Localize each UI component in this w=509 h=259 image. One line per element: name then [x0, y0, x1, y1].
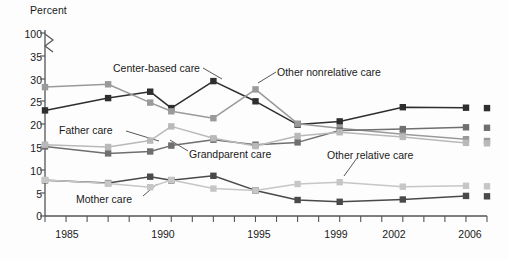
data-point: [463, 193, 469, 199]
data-point: [463, 183, 469, 189]
data-point: [400, 134, 406, 140]
data-point: [484, 140, 490, 146]
data-point: [400, 126, 406, 132]
series-father-care: [42, 123, 490, 150]
data-point: [42, 177, 48, 183]
data-point: [147, 89, 153, 95]
data-point: [337, 118, 343, 124]
data-point: [484, 125, 490, 131]
data-point: [147, 99, 153, 105]
data-point: [294, 121, 300, 127]
chart-figure: Percent 100 35 30 25 20 15 10 5 0 1985 1…: [0, 0, 509, 259]
data-point: [252, 86, 258, 92]
data-point: [337, 179, 343, 185]
data-point: [463, 140, 469, 146]
series-other-relative-care: [42, 177, 490, 194]
data-point: [210, 185, 216, 191]
data-point: [294, 197, 300, 203]
data-point: [463, 124, 469, 130]
data-point: [147, 174, 153, 180]
data-point: [168, 108, 174, 114]
data-point: [105, 144, 111, 150]
data-point: [252, 143, 258, 149]
data-point: [168, 142, 174, 148]
data-point: [147, 148, 153, 154]
data-point: [484, 183, 490, 189]
series-other-nonrelative-care: [42, 81, 490, 144]
data-point: [42, 107, 48, 113]
data-point: [105, 180, 111, 186]
x-axis-ticks: [45, 216, 487, 222]
data-point: [42, 142, 48, 148]
data-point: [337, 199, 343, 205]
data-point: [294, 139, 300, 145]
data-point: [400, 196, 406, 202]
data-point: [400, 184, 406, 190]
data-point: [484, 105, 490, 111]
data-point: [168, 123, 174, 129]
data-point: [400, 104, 406, 110]
data-point: [294, 133, 300, 139]
data-point: [463, 105, 469, 111]
data-point: [337, 129, 343, 135]
data-point: [210, 78, 216, 84]
series-grandparent-care: [42, 124, 490, 156]
data-point: [105, 81, 111, 87]
data-point: [210, 115, 216, 121]
data-point: [210, 173, 216, 179]
data-point: [42, 84, 48, 90]
data-point: [210, 135, 216, 141]
data-point: [168, 177, 174, 183]
data-series-layer: [42, 78, 490, 205]
data-point: [484, 193, 490, 199]
y-axis-ticks: [40, 33, 45, 216]
data-point: [147, 184, 153, 190]
data-point: [294, 181, 300, 187]
axis-break-marker: [45, 34, 53, 52]
annotation-leader-lines: [126, 68, 357, 196]
data-point: [252, 187, 258, 193]
chart-plot-area: [0, 0, 509, 259]
data-point: [105, 95, 111, 101]
data-point: [252, 98, 258, 104]
data-point: [147, 137, 153, 143]
data-point: [105, 150, 111, 156]
